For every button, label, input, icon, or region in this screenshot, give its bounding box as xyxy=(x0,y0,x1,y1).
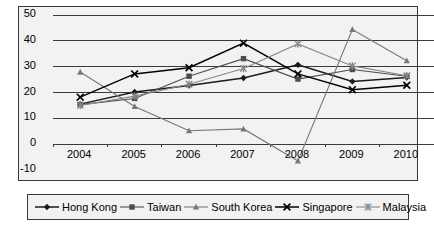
x-axis-tick-2007: 2007 xyxy=(222,149,264,160)
y-axis-tick-20: 20 xyxy=(8,86,36,97)
legend-marker-cross-icon xyxy=(274,200,300,214)
legend-marker-square-icon xyxy=(119,200,145,214)
legend-label: South Korea xyxy=(211,201,272,213)
legend-label: Singapore xyxy=(302,201,352,213)
data-point-malaysia-2007 xyxy=(240,65,246,73)
y-axis-tick-50: 50 xyxy=(8,8,36,19)
data-point-south-korea-2010 xyxy=(404,57,410,63)
data-point-taiwan-2008 xyxy=(295,76,300,81)
x-axis-tick-2008: 2008 xyxy=(276,149,318,160)
data-point-south-korea-2004 xyxy=(77,69,83,75)
legend-item-hong-kong[interactable]: Hong Kong xyxy=(34,200,119,214)
data-point-taiwan-2007 xyxy=(241,56,246,61)
legend-item-taiwan[interactable]: Taiwan xyxy=(119,200,183,214)
data-point-malaysia-2008 xyxy=(295,40,301,48)
data-point-south-korea-2005 xyxy=(132,103,138,109)
data-point-taiwan-2006 xyxy=(186,74,191,79)
data-point-singapore-2004 xyxy=(77,94,84,101)
x-axis-tick-2005: 2005 xyxy=(113,149,155,160)
legend-marker-asterisk-icon xyxy=(355,200,381,214)
data-point-hong-kong-2007 xyxy=(240,75,246,81)
legend-label: Malaysia xyxy=(383,201,426,213)
legend-marker-triangle-icon xyxy=(183,200,209,214)
line-chart-svg xyxy=(53,15,434,170)
legend-marker-diamond-icon xyxy=(34,200,60,214)
y-axis-tick-neg10: -10 xyxy=(8,163,36,174)
legend-label: Taiwan xyxy=(147,201,181,213)
y-axis-tick-10: 10 xyxy=(8,111,36,122)
y-axis-tick-40: 40 xyxy=(8,34,36,45)
legend-item-singapore[interactable]: Singapore xyxy=(274,200,354,214)
x-axis-tick-2009: 2009 xyxy=(330,149,372,160)
x-axis-tick-2004: 2004 xyxy=(58,149,100,160)
legend-item-south-korea[interactable]: South Korea xyxy=(183,200,274,214)
data-point-hong-kong-2009 xyxy=(349,78,355,84)
plot-inner xyxy=(53,15,434,170)
x-axis-tick-2010: 2010 xyxy=(385,149,427,160)
x-axis-tick-2006: 2006 xyxy=(167,149,209,160)
legend-item-malaysia[interactable]: Malaysia xyxy=(355,200,428,214)
legend-label: Hong Kong xyxy=(62,201,117,213)
chart-legend: Hong KongTaiwanSouth KoreaSingaporeMalay… xyxy=(27,194,409,220)
series-line-south-korea xyxy=(80,29,407,160)
y-axis-tick-30: 30 xyxy=(8,60,36,71)
series-line-malaysia xyxy=(80,44,407,105)
data-point-south-korea-2009 xyxy=(349,26,355,32)
y-axis-tick-0: 0 xyxy=(8,137,36,148)
